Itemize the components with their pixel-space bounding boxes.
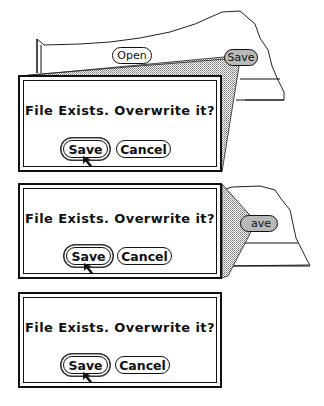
overwrite-dialog-frame-1: File Exists. Overwrite it? Save Cancel [18,75,222,172]
dialog-message: File Exists. Overwrite it? [20,320,220,335]
dialog-message: File Exists. Overwrite it? [20,211,220,226]
dialog-message: File Exists. Overwrite it? [20,103,220,118]
arrow-cursor-icon [82,155,96,169]
overwrite-dialog-final: File Exists. Overwrite it? Save Cancel [18,292,222,388]
cancel-button[interactable]: Cancel [115,356,170,374]
arrow-cursor-icon [83,262,97,276]
cancel-button[interactable]: Cancel [116,140,171,158]
save-button-partial: ave [240,215,278,232]
cancel-button[interactable]: Cancel [117,247,172,265]
save-button-pressed[interactable]: Save [224,49,258,66]
arrow-cursor-icon [82,371,96,385]
overwrite-dialog-frame-2: File Exists. Overwrite it? Save Cancel [18,183,222,279]
open-button[interactable]: Open [112,47,152,64]
